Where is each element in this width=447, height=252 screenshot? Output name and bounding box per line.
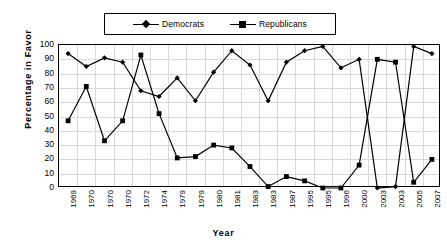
datapoint-democrats-2 (102, 55, 107, 60)
datapoint-republicans-16 (357, 163, 362, 168)
x-tick-17: 2003 (380, 190, 388, 208)
x-tick-9: 1981 (234, 190, 242, 208)
datapoint-democrats-18 (393, 184, 398, 189)
datapoint-democrats-20 (429, 51, 434, 56)
x-tick-20: 2007 (434, 190, 442, 208)
datapoint-republicans-7 (193, 154, 198, 159)
square-marker-icon (230, 20, 256, 29)
datapoint-democrats-11 (266, 98, 271, 103)
datapoint-republicans-5 (157, 111, 162, 116)
y-tick-0: 0 (30, 183, 54, 192)
datapoint-republicans-12 (284, 174, 289, 179)
x-tick-12: 1987 (289, 190, 297, 208)
x-tick-5: 1974 (161, 190, 169, 208)
y-axis-tick-labels: 1009080706050403020100 (28, 44, 54, 187)
x-tick-4: 1972 (143, 190, 151, 208)
y-tick-60: 60 (30, 97, 54, 106)
datapoint-republicans-0 (66, 118, 71, 123)
x-tick-18: 2003 (398, 190, 406, 208)
datapoint-democrats-19 (411, 44, 416, 49)
datapoint-republicans-18 (393, 60, 398, 65)
x-tick-7: 1979 (198, 190, 206, 208)
datapoint-republicans-2 (102, 138, 107, 143)
x-tick-6: 1979 (179, 190, 187, 208)
series-republicans (66, 53, 435, 191)
y-tick-100: 100 (30, 40, 54, 49)
diamond-marker-icon (133, 20, 159, 29)
y-tick-20: 20 (30, 154, 54, 163)
x-tick-16: 2000 (361, 190, 369, 208)
y-tick-70: 70 (30, 83, 54, 92)
x-tick-1: 1970 (88, 190, 96, 208)
datapoint-republicans-17 (375, 57, 380, 62)
series-layer (59, 45, 441, 188)
plot-area (58, 44, 440, 187)
legend-entry-republicans: Republicans (230, 19, 307, 29)
datapoint-republicans-13 (302, 178, 307, 183)
legend-entry-democrats: Democrats (133, 19, 204, 29)
x-tick-8: 1980 (216, 190, 224, 208)
x-tick-0: 1969 (70, 190, 78, 208)
legend-label-democrats: Democrats (162, 19, 204, 29)
datapoint-republicans-11 (266, 184, 271, 189)
x-tick-3: 1970 (125, 190, 133, 208)
x-tick-19: 2005 (416, 190, 424, 208)
datapoint-republicans-10 (248, 164, 253, 169)
y-tick-50: 50 (30, 111, 54, 120)
legend-label-republicans: Republicans (259, 19, 307, 29)
y-tick-80: 80 (30, 68, 54, 77)
y-tick-10: 10 (30, 168, 54, 177)
chart-legend: Democrats Republicans (104, 13, 336, 35)
y-tick-40: 40 (30, 126, 54, 135)
datapoint-republicans-3 (120, 118, 125, 123)
datapoint-republicans-20 (430, 157, 435, 162)
datapoint-republicans-1 (84, 84, 89, 89)
x-tick-11: 1983 (270, 190, 278, 208)
y-tick-30: 30 (30, 140, 54, 149)
datapoint-republicans-9 (229, 146, 234, 151)
datapoint-republicans-4 (138, 53, 143, 58)
datapoint-republicans-6 (175, 156, 180, 161)
x-tick-2: 1970 (107, 190, 115, 208)
datapoint-republicans-19 (411, 180, 416, 185)
y-tick-90: 90 (30, 54, 54, 63)
x-tick-13: 1995 (307, 190, 315, 208)
x-tick-15: 1996 (343, 190, 351, 208)
datapoint-republicans-8 (211, 143, 216, 148)
x-axis-title: Year (0, 228, 447, 238)
x-tick-10: 1983 (252, 190, 260, 208)
x-tick-14: 1995 (325, 190, 333, 208)
x-axis-tick-labels: 1969197019701970197219741979197919801981… (58, 190, 440, 224)
chart-page: Democrats Republicans Percentage in Favo… (0, 0, 447, 252)
datapoint-democrats-16 (357, 57, 362, 62)
